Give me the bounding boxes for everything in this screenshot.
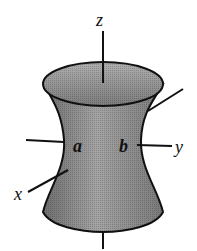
y-axis-label: y <box>173 137 183 157</box>
semi-axis-a-label: a <box>73 136 82 156</box>
horizontal-axis-left <box>26 140 64 142</box>
hyperboloid-diagram: z y x a b <box>0 0 197 251</box>
z-axis-label: z <box>95 10 103 30</box>
x-axis-label: x <box>13 184 22 204</box>
y-axis <box>137 145 172 146</box>
semi-axis-b-label: b <box>119 136 128 156</box>
